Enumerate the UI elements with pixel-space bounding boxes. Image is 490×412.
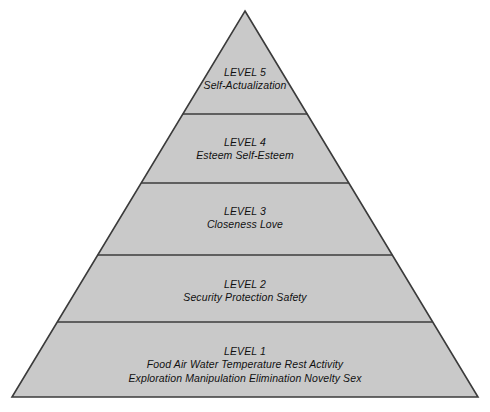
pyramid-shape: [0, 0, 490, 412]
pyramid-outline: [12, 11, 478, 397]
pyramid-diagram: LEVEL 5 Self-Actualization LEVEL 4 Estee…: [0, 0, 490, 412]
